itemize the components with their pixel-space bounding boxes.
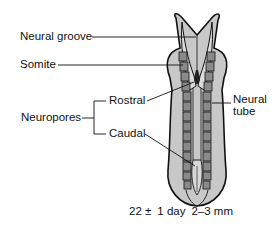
- label-caudal: Caudal: [109, 127, 145, 140]
- label-rostral: Rostral: [109, 94, 145, 107]
- caption-age-unit: 1 day: [157, 205, 185, 217]
- figure-caption: 22 ±1 day2–3 mm: [129, 205, 239, 217]
- caption-age: 22 ±: [129, 205, 151, 217]
- label-neural-tube-line2: tube: [233, 106, 267, 118]
- label-neural-tube: Neural tube: [233, 94, 267, 117]
- embryo-diagram: Neural groove Somite Neuropores Rostral …: [0, 0, 276, 227]
- caption-size: 2–3 mm: [191, 205, 233, 217]
- label-somite: Somite: [20, 58, 56, 71]
- label-neuropores: Neuropores: [21, 111, 81, 124]
- label-neural-groove: Neural groove: [20, 30, 92, 43]
- label-neural-tube-line1: Neural: [233, 94, 267, 106]
